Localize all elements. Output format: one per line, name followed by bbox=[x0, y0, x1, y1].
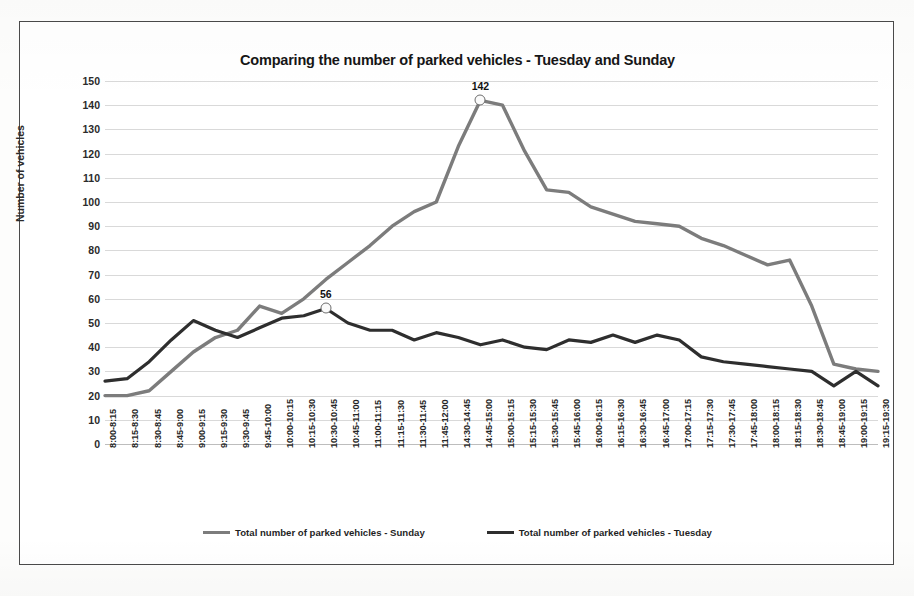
data-point-label: 142 bbox=[472, 80, 490, 92]
y-axis-tick: 100 bbox=[82, 196, 100, 208]
x-axis-tick: 14:30-14:45 bbox=[462, 399, 472, 448]
x-axis-tick: 15:30-15:45 bbox=[550, 399, 560, 448]
series-line bbox=[105, 100, 878, 395]
legend-swatch-icon bbox=[203, 531, 230, 534]
x-axis-tick: 17:00-17:15 bbox=[683, 399, 693, 448]
series-lines bbox=[105, 81, 878, 444]
x-axis-tick: 16:15-16:30 bbox=[616, 399, 626, 448]
data-point-marker bbox=[320, 303, 331, 314]
x-axis-tick: 8:45-9:00 bbox=[175, 409, 185, 448]
y-axis-tick: 20 bbox=[88, 390, 100, 402]
y-axis-tick: 70 bbox=[88, 269, 100, 281]
legend-swatch-icon bbox=[487, 531, 514, 534]
x-axis-tick: 17:45-18:00 bbox=[749, 399, 759, 448]
y-axis-tick: 90 bbox=[88, 220, 100, 232]
chart-frame: Comparing the number of parked vehicles … bbox=[19, 21, 894, 565]
y-axis-tick: 80 bbox=[88, 244, 100, 256]
y-axis-tick: 30 bbox=[88, 365, 100, 377]
data-point-marker bbox=[475, 95, 486, 106]
x-axis-tick: 10:45-11:00 bbox=[351, 400, 361, 448]
x-axis-tick: 15:00-15:15 bbox=[506, 399, 516, 448]
x-axis-tick: 18:00-18:15 bbox=[771, 399, 781, 448]
y-axis-tick: 120 bbox=[82, 148, 100, 160]
x-axis-tick: 14:45-15:00 bbox=[484, 399, 494, 448]
y-axis-tick: 50 bbox=[88, 317, 100, 329]
y-axis-tick: 150 bbox=[82, 75, 100, 87]
x-axis-tick: 8:00-8:15 bbox=[108, 409, 118, 448]
x-axis-tick: 16:45-17:00 bbox=[661, 399, 671, 448]
x-axis-tick: 11:45-12:00 bbox=[440, 400, 450, 448]
y-axis-title: Number of vehicles bbox=[14, 125, 26, 222]
data-point-label: 56 bbox=[320, 288, 332, 300]
y-axis-tick: 60 bbox=[88, 293, 100, 305]
y-axis-tick: 40 bbox=[88, 341, 100, 353]
x-axis-tick: 9:00-9:15 bbox=[197, 409, 207, 448]
y-axis-tick-labels: 0102030405060708090100110120130140150 bbox=[60, 81, 100, 444]
x-axis-tick: 18:45-19:00 bbox=[837, 399, 847, 448]
x-axis-tick: 9:30-9:45 bbox=[241, 409, 251, 448]
legend-label: Total number of parked vehicles - Tuesda… bbox=[519, 527, 712, 538]
x-axis-tick: 17:15-17:30 bbox=[705, 399, 715, 448]
chart-title: Comparing the number of parked vehicles … bbox=[20, 52, 895, 68]
x-axis-tick: 16:00-16:15 bbox=[594, 399, 604, 448]
x-axis-tick: 10:15-10:30 bbox=[307, 399, 317, 448]
x-axis-tick: 18:30-18:45 bbox=[815, 399, 825, 448]
x-axis-tick: 17:30-17:45 bbox=[727, 399, 737, 448]
y-axis-tick: 130 bbox=[82, 123, 100, 135]
chart-legend: Total number of parked vehicles - Sunday… bbox=[20, 527, 895, 538]
x-axis-tick: 8:15-8:30 bbox=[130, 409, 140, 448]
x-axis-tick: 15:15-15:30 bbox=[528, 399, 538, 448]
x-axis-tick: 10:00-10:15 bbox=[285, 399, 295, 448]
y-axis-tick: 110 bbox=[83, 172, 100, 184]
y-axis-tick: 10 bbox=[88, 414, 100, 426]
x-axis-tick: 11:30-11:45 bbox=[418, 400, 428, 448]
series-line bbox=[105, 308, 878, 385]
legend-label: Total number of parked vehicles - Sunday bbox=[235, 527, 425, 538]
x-axis-tick: 11:15-11:30 bbox=[396, 400, 406, 448]
x-axis-tick: 11:00-11:15 bbox=[373, 400, 383, 448]
x-axis-tick: 10:30-10:45 bbox=[329, 399, 339, 448]
x-axis-tick: 19:00-19:15 bbox=[859, 399, 869, 448]
x-axis-tick: 9:15-9:30 bbox=[219, 409, 229, 448]
plot-area: 14256 bbox=[105, 81, 878, 444]
legend-item[interactable]: Total number of parked vehicles - Sunday bbox=[203, 527, 425, 538]
legend-item[interactable]: Total number of parked vehicles - Tuesda… bbox=[487, 527, 712, 538]
x-axis-tick: 19:15-19:30 bbox=[881, 399, 891, 448]
x-axis-tick: 8:30-8:45 bbox=[153, 409, 163, 448]
x-axis-tick: 15:45-16:00 bbox=[572, 399, 582, 448]
x-axis-tick: 16:30-16:45 bbox=[638, 399, 648, 448]
x-axis-tick: 18:15-18:30 bbox=[793, 399, 803, 448]
y-axis-tick: 0 bbox=[94, 438, 100, 450]
x-axis-tick: 9:45-10:00 bbox=[263, 404, 273, 448]
y-axis-tick: 140 bbox=[82, 99, 100, 111]
figure-page: Comparing the number of parked vehicles … bbox=[0, 0, 914, 596]
